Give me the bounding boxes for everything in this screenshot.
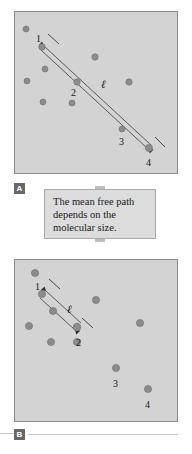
callout-text: The mean free path depends on the molecu… [53, 195, 148, 234]
panel-b-badge-rule-left [0, 433, 14, 434]
molecule-label-1: 1 [36, 34, 41, 44]
molecule [47, 338, 54, 345]
molecule [31, 269, 38, 276]
mean-free-path-label: ℓ [67, 304, 72, 314]
molecule [92, 296, 99, 303]
molecule [126, 79, 132, 85]
molecule-3 [119, 126, 125, 132]
molecule-1 [39, 44, 45, 50]
panel-a-large-molecules: 1234ℓ [14, 11, 178, 174]
molecule-label-2: 2 [76, 338, 81, 348]
molecule-4 [145, 144, 152, 151]
molecule-label-3: 3 [113, 379, 118, 389]
mean-free-path-label: ℓ [101, 79, 106, 89]
panel-b-small-molecules: 1234ℓ [14, 259, 178, 422]
molecule [23, 26, 29, 32]
panel-b-badge-rule [28, 434, 178, 435]
molecule [25, 322, 32, 329]
panel-b-badge-row: B [14, 428, 178, 440]
molecule-label-4: 4 [145, 400, 150, 410]
molecule [24, 78, 30, 84]
molecule [42, 66, 48, 72]
molecule-2 [73, 323, 81, 331]
molecule [49, 307, 56, 314]
panel-a-badge: A [14, 183, 25, 194]
molecule-label-3: 3 [119, 137, 124, 147]
molecule [40, 99, 46, 105]
callout-box: The mean free path depends on the molecu… [44, 189, 156, 239]
mean-free-path-figure: 1234ℓ A The mean free path depends on th… [0, 0, 192, 454]
molecule [92, 54, 98, 60]
callout-tab-bottom [95, 239, 105, 242]
molecule-2 [74, 79, 80, 85]
molecule-3 [112, 364, 119, 371]
panel-b-badge: B [14, 429, 25, 440]
molecule-label-4: 4 [146, 158, 151, 168]
molecule-label-2: 2 [71, 88, 76, 98]
molecule-4 [144, 385, 151, 392]
molecule [136, 319, 143, 326]
molecule [69, 100, 75, 106]
molecule-label-1: 1 [35, 282, 40, 292]
